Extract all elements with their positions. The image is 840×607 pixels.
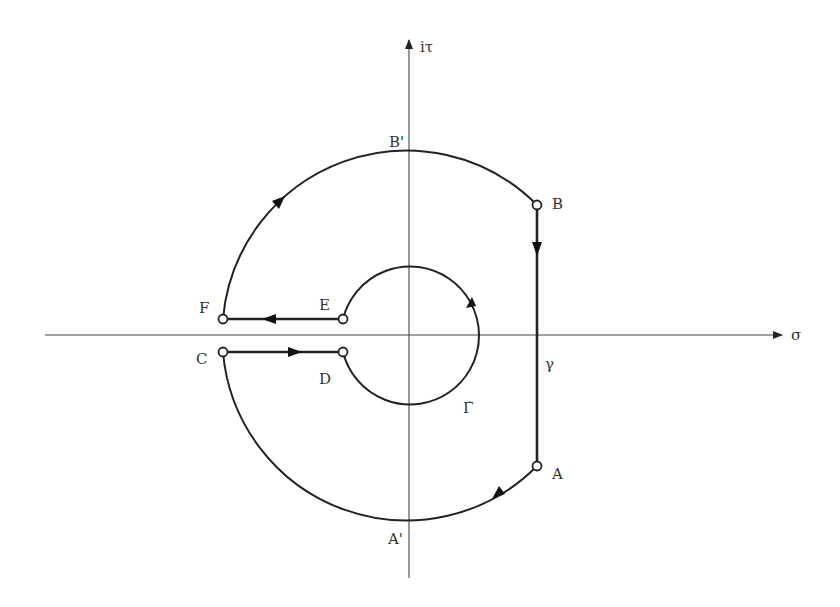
label-B-prime: B'	[389, 133, 404, 151]
arrow-right-icon	[288, 347, 302, 357]
point-C-marker	[219, 348, 228, 357]
label-C: C	[196, 350, 207, 368]
direction-arrows	[262, 196, 542, 499]
label-gamma-dot: Γ̇	[463, 399, 473, 417]
contour-diagram: σ iτ B' B A A' F E C D γ	[0, 0, 840, 607]
arrow-left-icon	[262, 314, 276, 324]
arrow-down-left-icon	[492, 486, 505, 499]
axes: σ iτ	[45, 38, 801, 578]
point-F-marker	[219, 315, 228, 324]
arrow-down-icon	[532, 242, 542, 256]
label-B: B	[552, 195, 563, 213]
label-gamma: γ	[545, 355, 554, 373]
point-D-marker	[339, 348, 348, 357]
point-E-marker	[339, 315, 348, 324]
outer-arc-upper	[223, 151, 537, 319]
point-A-marker	[533, 462, 542, 471]
label-A: A	[551, 465, 563, 483]
point-B-marker	[533, 201, 542, 210]
outer-arc-lower	[223, 352, 537, 520]
tau-axis-label: iτ	[420, 38, 433, 56]
label-F: F	[199, 299, 209, 317]
label-E: E	[319, 296, 330, 314]
label-A-prime: A'	[387, 530, 403, 548]
label-D: D	[319, 370, 331, 388]
sigma-axis-label: σ	[791, 326, 801, 344]
